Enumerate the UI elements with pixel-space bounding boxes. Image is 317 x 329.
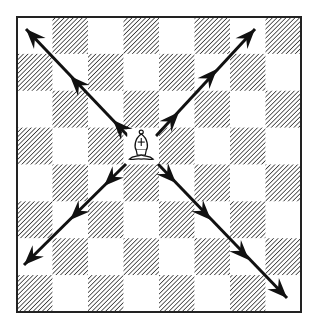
light-square bbox=[53, 54, 89, 91]
light-square bbox=[124, 201, 160, 238]
dark-square bbox=[53, 165, 89, 202]
dark-square bbox=[53, 91, 89, 128]
dark-square bbox=[195, 91, 231, 128]
dark-square bbox=[124, 91, 160, 128]
dark-square bbox=[195, 238, 231, 275]
dark-square bbox=[17, 54, 53, 91]
light-square bbox=[124, 275, 160, 312]
dark-square bbox=[124, 17, 160, 54]
dark-square bbox=[230, 201, 266, 238]
dark-square bbox=[88, 275, 124, 312]
light-square bbox=[88, 17, 124, 54]
dark-square bbox=[230, 54, 266, 91]
dark-square bbox=[266, 238, 302, 275]
dark-square bbox=[230, 275, 266, 312]
dark-square bbox=[195, 17, 231, 54]
light-square bbox=[159, 238, 195, 275]
light-square bbox=[17, 165, 53, 202]
dark-square bbox=[53, 17, 89, 54]
dark-square bbox=[159, 128, 195, 165]
light-square bbox=[266, 54, 302, 91]
dark-square bbox=[53, 238, 89, 275]
dark-square bbox=[159, 201, 195, 238]
light-square bbox=[53, 275, 89, 312]
light-square bbox=[159, 91, 195, 128]
light-square bbox=[195, 275, 231, 312]
dark-square bbox=[17, 128, 53, 165]
dark-square bbox=[266, 165, 302, 202]
dark-square bbox=[17, 275, 53, 312]
light-square bbox=[88, 91, 124, 128]
light-square bbox=[17, 91, 53, 128]
chess-bishop-diagram bbox=[0, 0, 317, 329]
dark-square bbox=[124, 165, 160, 202]
dark-square bbox=[195, 165, 231, 202]
dark-square bbox=[159, 54, 195, 91]
dark-square bbox=[266, 17, 302, 54]
light-square bbox=[266, 128, 302, 165]
light-square bbox=[88, 238, 124, 275]
light-square bbox=[124, 54, 160, 91]
light-square bbox=[266, 201, 302, 238]
light-square bbox=[159, 17, 195, 54]
dark-square bbox=[17, 201, 53, 238]
light-square bbox=[230, 91, 266, 128]
dark-square bbox=[159, 275, 195, 312]
dark-square bbox=[124, 238, 160, 275]
dark-square bbox=[88, 201, 124, 238]
dark-square bbox=[266, 91, 302, 128]
light-square bbox=[230, 165, 266, 202]
white-bishop-piece bbox=[127, 129, 155, 163]
dark-square bbox=[230, 128, 266, 165]
light-square bbox=[53, 128, 89, 165]
light-square bbox=[195, 128, 231, 165]
dark-square bbox=[88, 54, 124, 91]
